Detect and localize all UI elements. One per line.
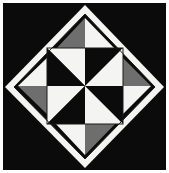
pinwheel-cell-bottom-right <box>85 86 123 124</box>
artwork-canvas <box>0 0 169 173</box>
pinwheel-cell-bottom-left <box>47 86 85 124</box>
inner-pinwheel-square <box>47 48 123 124</box>
pinwheel-quilt-block-graphic <box>0 0 169 173</box>
pinwheel-cell-top-right <box>85 48 123 86</box>
pinwheel-cell-top-left <box>47 48 85 86</box>
